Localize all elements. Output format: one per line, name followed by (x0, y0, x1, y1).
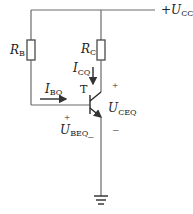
collector-lead (90, 92, 101, 101)
vce-plus-sign: + (112, 79, 118, 91)
vbe-plus-sign: + (64, 111, 70, 123)
vce-label: UCEQ (108, 101, 137, 117)
ibq-label: IBQ (44, 82, 63, 97)
vbe-label: UBEQ (60, 123, 89, 138)
resistor-rb (27, 40, 35, 60)
transistor-npn (90, 92, 101, 117)
supply-label: +UCC (161, 3, 193, 18)
icq-label: ICQ (72, 61, 91, 77)
emitter-lead-arrow (90, 108, 101, 117)
resistor-rc (97, 40, 105, 60)
vce-minus-sign: – (112, 123, 119, 135)
rb-label: RB (9, 43, 25, 58)
vbe-minus-sign: _ (87, 126, 94, 138)
ground-icon (94, 196, 108, 204)
circuit-diagram: +UCC RB RC ICQ IBQ T + UCEQ – + UBEQ _ (0, 0, 193, 214)
rc-label: RC (80, 42, 96, 57)
transistor-label: T (80, 83, 88, 96)
